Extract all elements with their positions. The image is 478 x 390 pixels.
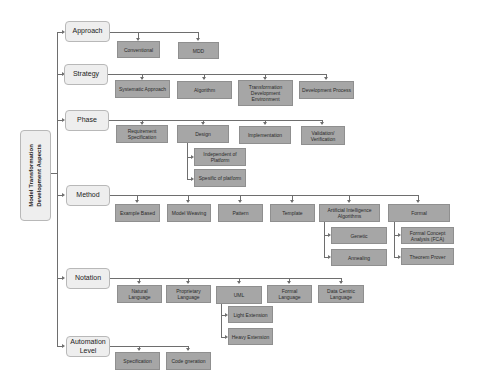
category-phase-label: Phase (77, 116, 97, 124)
node-systematic-approach-label: Systematic Approach (119, 86, 166, 92)
node-formal-label: Formal (411, 210, 427, 216)
category-approach: Approach (65, 21, 110, 42)
node-specification: Specification (115, 352, 160, 370)
trunk-line (57, 32, 58, 346)
approach-arrow-2 (196, 38, 200, 41)
node-proprietary-language: Proprietary Language (166, 285, 211, 303)
node-code-generation: Code gneration (166, 352, 211, 370)
notation-arrow-5 (339, 281, 343, 284)
root-node: Model Transformation Development Aspects (20, 130, 51, 221)
category-strategy-label: Strategy (73, 70, 99, 78)
node-validation-verification: Validation/ Verification (301, 126, 345, 145)
root-label: Model Transformation Development Aspects (28, 144, 43, 207)
node-specification-label: Specification (123, 358, 151, 364)
automation-arrow-2 (186, 348, 190, 351)
node-example-based-label: Example Based (120, 210, 155, 216)
node-pattern-label: Pattern (232, 210, 248, 216)
node-implementation: Implementation (239, 126, 291, 144)
node-natural-language-label: Natural Language (120, 288, 159, 300)
strategy-arrow-2 (202, 77, 206, 80)
node-design: Design (177, 125, 229, 143)
phase-arrow-4 (320, 122, 324, 125)
node-genetic: Genetic (331, 227, 387, 244)
node-mdd: MDD (178, 42, 219, 59)
node-annealing: Annealing (331, 249, 387, 266)
node-requirement-specification-label: Requirement Specification (119, 128, 165, 140)
notation-arrow-4 (287, 281, 291, 284)
node-heavy-extension: Heavy Extension (228, 328, 273, 345)
category-notation: Notation (66, 268, 110, 289)
arrow-method (62, 193, 65, 197)
node-data-centric-language: Data Centric Language (318, 285, 364, 303)
node-annealing-label: Annealing (348, 255, 370, 261)
node-fca-label: Formal Concept Analysis (FCA) (404, 230, 451, 242)
notation-bus (110, 278, 342, 279)
node-light-extension: Light Extension (228, 306, 273, 323)
node-ai-algorithms: Artificial Intelligence Algorithms (319, 204, 380, 222)
automation-bus (110, 346, 189, 347)
node-ai-algorithms-label: Artificial Intelligence Algorithms (322, 207, 377, 219)
ai-sub-trunk (324, 222, 325, 257)
node-transformation-dev-env-label: Transformation Development Environment (241, 84, 290, 102)
node-light-extension-label: Light Extension (233, 312, 267, 318)
arrow-automation (62, 344, 65, 348)
node-design-label: Design (195, 131, 211, 137)
node-example-based: Example Based (115, 204, 160, 222)
node-model-weaving-label: Model Weaving (172, 210, 206, 216)
node-fca: Formal Concept Analysis (FCA) (401, 227, 454, 244)
notation-arrow-1 (137, 281, 141, 284)
node-uml: UML (216, 286, 262, 304)
node-independent-of-platform-label: Independent of Platform (197, 151, 243, 163)
node-template: Template (270, 204, 315, 222)
method-bus (110, 195, 419, 196)
node-uml-label: UML (234, 292, 245, 298)
node-specific-of-platform-label: Spesific of platform (199, 175, 242, 181)
strategy-arrow-4 (324, 77, 328, 80)
approach-bus (110, 32, 199, 33)
category-phase: Phase (65, 110, 109, 131)
method-arrow-6 (416, 200, 420, 203)
method-arrow-1 (135, 200, 139, 203)
node-natural-language: Natural Language (117, 285, 162, 303)
category-approach-label: Approach (73, 27, 103, 35)
node-algorithm: Algorithm (177, 81, 232, 99)
method-arrow-2 (186, 200, 190, 203)
node-development-process-label: Development Process (302, 87, 351, 93)
category-strategy: Strategy (64, 64, 108, 85)
node-independent-of-platform: Independent of Platform (194, 148, 246, 166)
node-pattern: Pattern (218, 204, 263, 222)
node-theorem-prover-label: Theorem Prover (409, 254, 445, 260)
uml-sub-trunk (221, 304, 222, 337)
strategy-bus (108, 74, 327, 75)
node-formal: Formal (388, 204, 450, 222)
node-development-process: Development Process (299, 81, 354, 99)
node-genetic-label: Genetic (350, 233, 367, 239)
node-requirement-specification: Requirement Specification (116, 125, 168, 143)
node-specific-of-platform: Spesific of platform (194, 169, 246, 187)
node-validation-verification-label: Validation/ Verification (304, 130, 342, 142)
category-automation-level: Automation Level (66, 336, 110, 357)
node-theorem-prover: Theorem Prover (401, 248, 454, 265)
method-arrow-5 (347, 200, 351, 203)
node-mdd-label: MDD (193, 48, 204, 54)
node-conventional-label: Conventional (124, 47, 153, 53)
category-method-label: Method (76, 191, 99, 199)
node-transformation-dev-env: Transformation Development Environment (238, 80, 293, 106)
node-algorithm-label: Algorithm (194, 87, 215, 93)
method-arrow-4 (290, 200, 294, 203)
phase-arrow-3 (263, 122, 267, 125)
node-proprietary-language-label: Proprietary Language (169, 288, 208, 300)
root-label-line2: Development Aspects (36, 144, 44, 207)
node-conventional: Conventional (117, 41, 160, 58)
formal-sub-trunk (394, 222, 395, 257)
category-automation-level-label: Automation Level (67, 338, 109, 354)
notation-arrow-3 (237, 281, 241, 284)
automation-arrow-1 (137, 348, 141, 351)
node-model-weaving: Model Weaving (167, 204, 211, 222)
node-formal-language: Formal Language (267, 285, 312, 303)
node-heavy-extension-label: Heavy Extension (232, 334, 270, 340)
arrow-notation (62, 276, 65, 280)
method-arrow-3 (238, 200, 242, 203)
notation-arrow-2 (186, 281, 190, 284)
root-label-line1: Model Transformation (28, 144, 36, 207)
